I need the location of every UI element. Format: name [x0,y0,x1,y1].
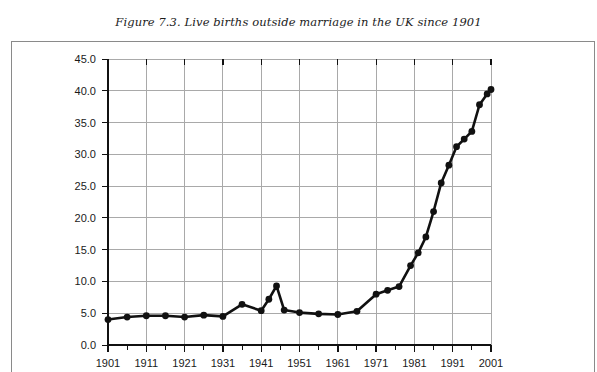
x-tick-label: 1991 [440,357,464,369]
line-chart: 0.05.010.015.020.025.030.035.040.045.019… [12,42,596,372]
y-tick-label: 15.0 [75,244,96,256]
y-tick-label: 25.0 [75,180,96,192]
y-tick-label: 35.0 [75,117,96,129]
x-axis-ticks [102,59,491,352]
data-point-marker [488,86,495,93]
data-point-marker [162,312,169,319]
y-tick-label: 45.0 [75,53,96,65]
figure-caption: Figure 7.3. Live births outside marriage… [0,15,597,29]
data-point-marker [453,143,460,150]
data-point-marker [334,311,341,318]
x-tick-label: 1901 [96,357,120,369]
data-point-marker [373,291,380,298]
chart-frame: 0.05.010.015.020.025.030.035.040.045.019… [11,41,595,372]
data-point-marker [200,312,207,319]
data-point-marker [445,162,452,169]
data-point-marker [181,314,188,321]
x-tick-label: 2001 [479,357,503,369]
data-point-marker [315,310,322,317]
x-axis-tick-labels: 1901191119211931194119511961197119811991… [96,357,503,369]
data-point-marker [143,312,150,319]
data-point-marker [468,128,475,135]
y-tick-label: 0.0 [81,339,96,351]
data-point-marker [407,262,414,269]
y-axis-tick-labels: 0.05.010.015.020.025.030.035.040.045.0 [75,53,96,351]
data-point-marker [281,307,288,314]
data-point-marker [124,314,131,321]
data-point-marker [438,180,445,187]
y-tick-label: 20.0 [75,212,96,224]
x-tick-label: 1981 [402,357,426,369]
x-tick-label: 1911 [134,357,158,369]
data-point-marker [415,249,422,256]
data-point-marker [265,296,272,303]
x-tick-label: 1971 [364,357,388,369]
x-tick-label: 1941 [249,357,273,369]
x-tick-label: 1921 [172,357,196,369]
data-point-marker [296,309,303,316]
y-tick-label: 30.0 [75,148,96,160]
data-point-marker [105,316,112,323]
figure-root: Figure 7.3. Live births outside marriage… [0,0,597,372]
data-point-marker [384,287,391,294]
data-point-marker [396,283,403,290]
data-point-marker [273,282,280,289]
x-tick-label: 1961 [326,357,350,369]
data-point-marker [430,208,437,215]
data-point-marker [239,301,246,308]
y-tick-label: 10.0 [75,275,96,287]
x-tick-label: 1951 [287,357,311,369]
data-point-marker [354,308,361,315]
y-tick-label: 5.0 [81,307,96,319]
y-tick-label: 40.0 [75,85,96,97]
data-point-marker [258,307,265,314]
grid-lines [108,59,491,345]
data-point-marker [422,234,429,241]
data-point-marker [461,136,468,143]
x-tick-label: 1931 [211,357,235,369]
data-point-marker [220,313,227,320]
data-point-marker [476,101,483,108]
